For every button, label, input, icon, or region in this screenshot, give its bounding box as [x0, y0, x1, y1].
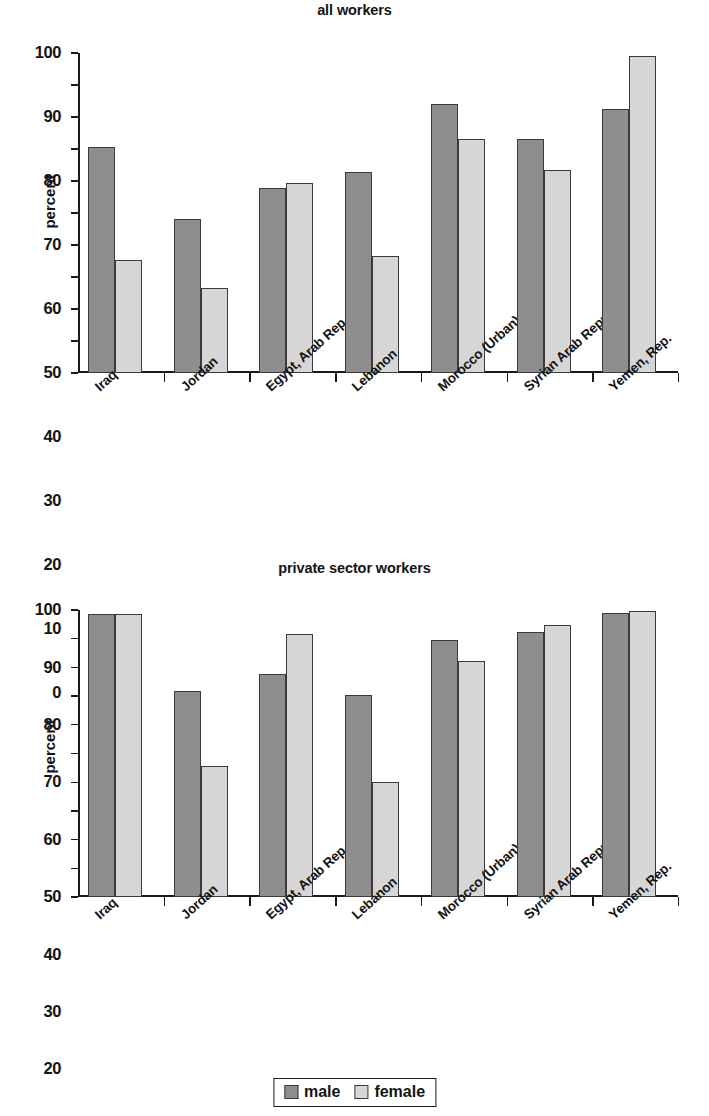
- x-tick: [592, 373, 593, 382]
- y-tick: 30: [71, 810, 78, 811]
- bar-male: [174, 219, 201, 373]
- x-tick: [421, 373, 422, 382]
- y-tick: 50: [71, 212, 78, 213]
- y-tick-label: 60: [43, 829, 61, 848]
- bar-male: [259, 188, 286, 373]
- legend-label-female: female: [374, 1083, 425, 1101]
- bar-group: [88, 610, 142, 897]
- y-tick: 20: [71, 308, 78, 309]
- y-tick: 0: [71, 372, 78, 373]
- y-tick: 10: [71, 868, 78, 869]
- plot-area-all-workers: percent 0102030405060708090100IraqJordan…: [78, 53, 678, 373]
- bar-male: [517, 632, 544, 897]
- y-tick: 0: [71, 896, 78, 897]
- y-axis-line-top: [78, 53, 80, 373]
- y-tick: 60: [71, 180, 78, 181]
- y-tick: 50: [71, 753, 78, 754]
- bar-group: [517, 53, 571, 373]
- y-axis-line-bottom: [78, 610, 80, 897]
- bar-female: [544, 625, 571, 897]
- y-tick-label: 80: [43, 171, 61, 190]
- bar-male: [602, 109, 629, 373]
- bar-group: [602, 53, 656, 373]
- bar-female: [458, 139, 485, 373]
- x-tick: [335, 897, 336, 906]
- chart-title-top: all workers: [0, 2, 709, 18]
- y-tick: 80: [71, 667, 78, 668]
- y-tick: 60: [71, 724, 78, 725]
- y-tick-label: 40: [43, 944, 61, 963]
- bar-male: [345, 172, 372, 373]
- y-tick: 70: [71, 695, 78, 696]
- y-tick: 30: [71, 276, 78, 277]
- x-tick: [507, 897, 508, 906]
- chart-title-bottom: private sector workers: [0, 560, 709, 576]
- legend-entry-male: male: [284, 1083, 340, 1101]
- bar-female: [115, 614, 142, 897]
- x-tick: [249, 897, 250, 906]
- bar-group: [431, 53, 485, 373]
- legend-label-male: male: [304, 1083, 340, 1101]
- x-tick: [507, 373, 508, 382]
- x-tick: [164, 373, 165, 382]
- y-tick: 20: [71, 839, 78, 840]
- y-tick: 10: [71, 340, 78, 341]
- y-tick: 100: [71, 609, 78, 610]
- bar-female: [629, 56, 656, 373]
- legend-entry-female: female: [354, 1083, 425, 1101]
- x-category-label: Iraq: [92, 895, 120, 922]
- y-tick-label: 100: [35, 600, 61, 619]
- bar-female: [115, 260, 142, 373]
- bar-group: [88, 53, 142, 373]
- y-tick-label: 70: [43, 235, 61, 254]
- bar-group: [259, 610, 313, 897]
- y-tick-label: 30: [43, 1002, 61, 1021]
- y-tick-label: 90: [43, 107, 61, 126]
- bar-female: [629, 611, 656, 897]
- bar-group: [174, 53, 228, 373]
- bar-female: [458, 661, 485, 897]
- bar-female: [286, 634, 313, 897]
- y-tick-label: 100: [35, 43, 61, 62]
- x-tick: [678, 373, 679, 382]
- bar-group: [431, 610, 485, 897]
- x-tick: [164, 897, 165, 906]
- x-tick: [335, 373, 336, 382]
- bar-male: [259, 674, 286, 897]
- bar-male: [517, 139, 544, 373]
- x-tick: [421, 897, 422, 906]
- bar-group: [602, 610, 656, 897]
- chart-legend: male female: [273, 1078, 436, 1107]
- y-tick: 40: [71, 782, 78, 783]
- y-tick-label: 70: [43, 772, 61, 791]
- y-tick: 80: [71, 116, 78, 117]
- x-tick: [678, 897, 679, 906]
- x-tick: [592, 897, 593, 906]
- bar-group: [345, 53, 399, 373]
- y-tick: 100: [71, 52, 78, 53]
- y-tick: 90: [71, 84, 78, 85]
- bar-group: [517, 610, 571, 897]
- y-tick-label: 80: [43, 715, 61, 734]
- legend-swatch-male-icon: [284, 1085, 298, 1099]
- bar-male: [88, 614, 115, 897]
- y-tick: 40: [71, 244, 78, 245]
- legend-swatch-female-icon: [354, 1085, 368, 1099]
- bar-male: [88, 147, 115, 373]
- bar-female: [201, 766, 228, 897]
- bar-male: [602, 613, 629, 897]
- y-tick-label: 20: [43, 1059, 61, 1078]
- bar-group: [259, 53, 313, 373]
- y-tick-label: 50: [43, 887, 61, 906]
- bar-group: [174, 610, 228, 897]
- y-tick-label: 30: [43, 491, 61, 510]
- y-tick-label: 50: [43, 363, 61, 382]
- y-tick-label: 40: [43, 427, 61, 446]
- y-tick-label: 90: [43, 657, 61, 676]
- bar-male: [431, 104, 458, 373]
- bar-male: [174, 691, 201, 897]
- plot-area-private-sector-workers: percent 0102030405060708090100IraqJordan…: [78, 610, 678, 897]
- x-tick: [249, 373, 250, 382]
- chart-panel-private-sector-workers: private sector workers percent 010203040…: [0, 548, 709, 1058]
- y-tick: 90: [71, 638, 78, 639]
